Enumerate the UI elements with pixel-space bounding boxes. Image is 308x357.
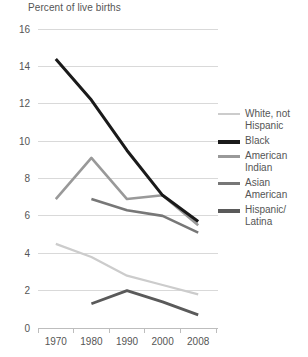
x-axis-tick-label: 1990	[116, 336, 139, 347]
legend-swatch-icon	[218, 140, 240, 144]
legend-label: Black	[245, 135, 269, 147]
x-axis-tick-label: 2008	[187, 336, 210, 347]
x-axis-tick-label: 1980	[80, 336, 103, 347]
legend-swatch-icon	[218, 113, 240, 115]
y-axis-tick-label: 16	[19, 24, 31, 35]
y-axis-tick-label: 6	[24, 210, 30, 221]
x-axis-tick-label: 1970	[45, 336, 68, 347]
series-line	[91, 291, 198, 315]
y-axis-tick-label: 8	[24, 173, 30, 184]
chart-legend: White, not HispanicBlackAmerican IndianA…	[218, 108, 306, 231]
legend-swatch-icon	[218, 155, 240, 158]
legend-swatch-icon	[218, 209, 240, 213]
series-line	[56, 244, 198, 294]
legend-item[interactable]: Asian American	[218, 177, 306, 201]
y-axis-tick-label: 4	[24, 248, 30, 259]
y-axis-tick-label: 2	[24, 285, 30, 296]
legend-label: Hispanic/ Latina	[245, 204, 286, 228]
y-axis-tick-label: 0	[24, 323, 30, 334]
legend-label: White, not Hispanic	[245, 108, 290, 132]
chart-container: Percent of live births 02468101214161970…	[0, 0, 308, 357]
legend-item[interactable]: American Indian	[218, 150, 306, 174]
x-axis-tick-label: 2000	[151, 336, 174, 347]
legend-item[interactable]: Black	[218, 135, 306, 147]
y-axis-tick-label: 10	[19, 136, 31, 147]
legend-item[interactable]: White, not Hispanic	[218, 108, 306, 132]
legend-swatch-icon	[218, 182, 240, 185]
legend-item[interactable]: Hispanic/ Latina	[218, 204, 306, 228]
y-axis-tick-label: 14	[19, 61, 31, 72]
series-line	[56, 158, 198, 225]
legend-label: American Indian	[245, 150, 287, 174]
y-axis-tick-label: 12	[19, 98, 31, 109]
legend-label: Asian American	[245, 177, 287, 201]
